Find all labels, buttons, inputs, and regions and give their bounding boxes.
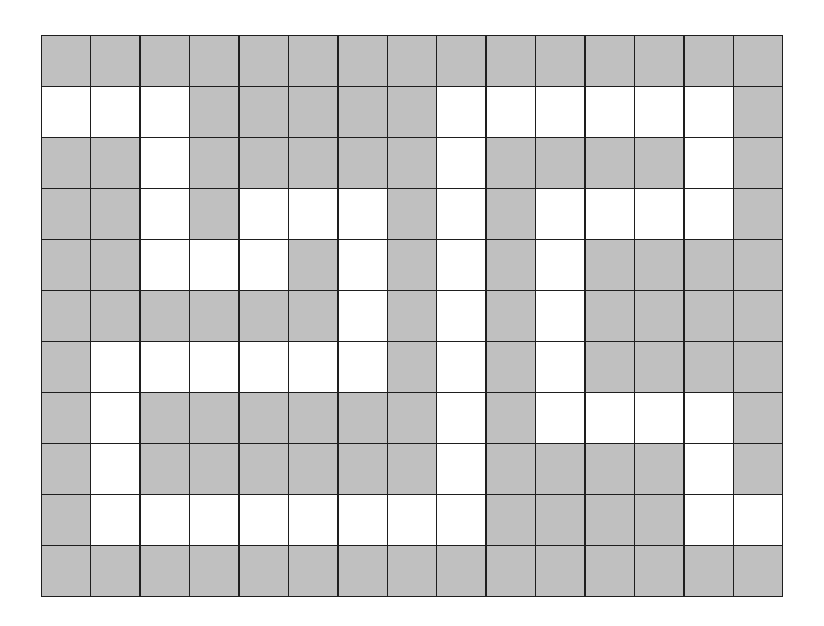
maze-wall-cell	[190, 189, 238, 239]
maze-wall-cell	[635, 36, 683, 86]
maze-wall-cell	[635, 291, 683, 341]
maze-path-cell	[536, 342, 584, 392]
maze-path-cell	[536, 240, 584, 290]
maze-path-cell	[141, 87, 189, 137]
maze-wall-cell	[91, 291, 139, 341]
maze-wall-cell	[388, 138, 436, 188]
maze-wall-cell	[685, 240, 733, 290]
maze-wall-cell	[734, 138, 782, 188]
maze-wall-cell	[586, 36, 634, 86]
maze-path-cell	[437, 444, 485, 494]
maze-wall-cell	[388, 393, 436, 443]
maze-wall-cell	[289, 393, 337, 443]
maze-wall-cell	[586, 546, 634, 596]
maze-path-cell	[536, 291, 584, 341]
maze-wall-cell	[42, 342, 90, 392]
maze-wall-cell	[141, 291, 189, 341]
maze-path-cell	[339, 342, 387, 392]
maze-wall-cell	[339, 138, 387, 188]
maze-wall-cell	[289, 546, 337, 596]
maze-path-cell	[141, 138, 189, 188]
maze-path-cell	[141, 495, 189, 545]
maze-path-cell	[91, 342, 139, 392]
maze-path-cell	[289, 495, 337, 545]
maze-wall-cell	[42, 138, 90, 188]
maze-wall-cell	[635, 138, 683, 188]
maze-path-cell	[685, 189, 733, 239]
maze-wall-cell	[190, 36, 238, 86]
maze-wall-cell	[339, 546, 387, 596]
maze-path-cell	[190, 240, 238, 290]
maze-wall-cell	[289, 87, 337, 137]
maze-path-cell	[685, 393, 733, 443]
maze-wall-cell	[42, 240, 90, 290]
maze-wall-cell	[685, 291, 733, 341]
maze-wall-cell	[635, 240, 683, 290]
maze-wall-cell	[42, 291, 90, 341]
maze-wall-cell	[586, 342, 634, 392]
maze-wall-cell	[586, 291, 634, 341]
maze-path-cell	[339, 495, 387, 545]
maze-wall-cell	[487, 138, 535, 188]
maze-wall-cell	[734, 546, 782, 596]
maze-path-cell	[685, 444, 733, 494]
maze-path-cell	[141, 240, 189, 290]
maze-wall-cell	[190, 393, 238, 443]
maze-wall-cell	[536, 444, 584, 494]
maze-wall-cell	[240, 546, 288, 596]
maze-wall-cell	[388, 546, 436, 596]
maze-wall-cell	[536, 36, 584, 86]
maze-path-cell	[437, 138, 485, 188]
maze-wall-cell	[635, 342, 683, 392]
maze-path-cell	[388, 495, 436, 545]
maze-path-cell	[635, 393, 683, 443]
maze-wall-cell	[536, 546, 584, 596]
maze-path-cell	[536, 393, 584, 443]
maze-wall-cell	[91, 36, 139, 86]
maze-wall-cell	[734, 87, 782, 137]
maze-path-cell	[437, 495, 485, 545]
maze-path-cell	[685, 138, 733, 188]
maze-wall-cell	[190, 138, 238, 188]
maze-wall-cell	[339, 444, 387, 494]
maze-wall-cell	[190, 546, 238, 596]
maze-wall-cell	[240, 87, 288, 137]
maze-wall-cell	[685, 342, 733, 392]
maze-path-cell	[685, 495, 733, 545]
maze-wall-cell	[289, 291, 337, 341]
maze-path-cell	[91, 393, 139, 443]
maze-wall-cell	[685, 36, 733, 86]
maze-wall-cell	[388, 444, 436, 494]
maze-wall-cell	[487, 240, 535, 290]
maze-path-cell	[289, 189, 337, 239]
maze-wall-cell	[487, 444, 535, 494]
maze-wall-cell	[536, 495, 584, 545]
maze-wall-cell	[141, 444, 189, 494]
maze-path-cell	[586, 393, 634, 443]
maze-wall-cell	[635, 495, 683, 545]
maze-wall-cell	[685, 546, 733, 596]
maze-wall-cell	[141, 36, 189, 86]
maze-wall-cell	[289, 240, 337, 290]
maze-wall-cell	[42, 495, 90, 545]
maze-wall-cell	[91, 189, 139, 239]
maze-path-cell	[289, 342, 337, 392]
maze-wall-cell	[586, 138, 634, 188]
maze-wall-cell	[42, 444, 90, 494]
maze-wall-cell	[339, 87, 387, 137]
maze-wall-cell	[734, 36, 782, 86]
maze-path-cell	[91, 87, 139, 137]
maze-wall-cell	[487, 495, 535, 545]
maze-path-cell	[586, 189, 634, 239]
maze-wall-cell	[734, 444, 782, 494]
maze-wall-cell	[240, 138, 288, 188]
maze-path-cell	[190, 495, 238, 545]
maze-wall-cell	[42, 393, 90, 443]
maze-wall-cell	[487, 189, 535, 239]
maze-wall-cell	[388, 87, 436, 137]
maze-path-cell	[734, 495, 782, 545]
maze-path-cell	[190, 342, 238, 392]
maze-path-cell	[635, 87, 683, 137]
maze-wall-cell	[190, 87, 238, 137]
maze-path-cell	[685, 87, 733, 137]
